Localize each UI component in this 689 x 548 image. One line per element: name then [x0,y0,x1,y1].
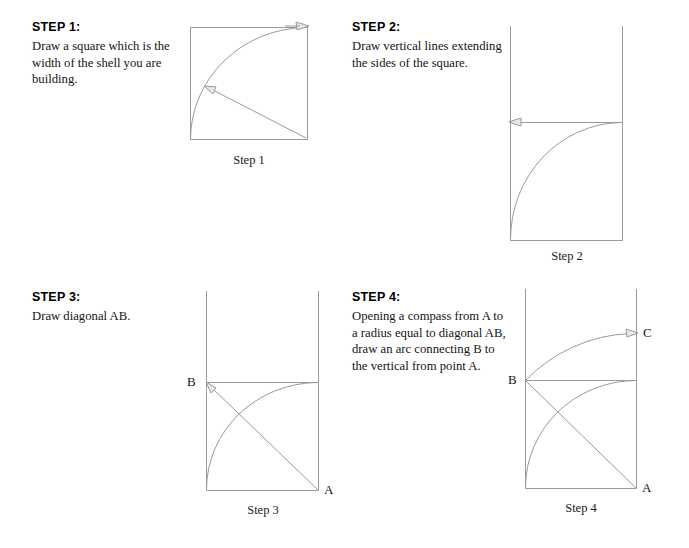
step-4-diagonal-ab [526,381,636,488]
step-3-caption: Step 3 [223,503,303,518]
step-1-text: STEP 1: Draw a square which is the width… [32,20,190,88]
page-root: { "page": { "title": "Shell construction… [0,0,689,548]
step-1-radius-line [211,89,306,138]
step-3-body: Draw diagonal AB. [32,308,190,325]
step-3-label-A: A [324,482,333,498]
step-4-label-C: C [643,325,652,341]
step-3-label-B: B [187,374,196,390]
step-3-text: STEP 3: Draw diagonal AB. [32,290,190,325]
step-3-diagonal-ab [210,386,318,490]
step-1-body: Draw a square which is the width of the … [32,38,190,89]
step-4-caption: Step 4 [541,501,621,516]
step-2-arrowhead [509,118,521,126]
step-4-label-B: B [508,372,517,388]
step-2-caption: Step 2 [527,249,607,264]
step-4-compass-arrowhead [626,329,638,337]
step-4-heading: STEP 4: [352,290,510,306]
step-2-arc [511,123,622,240]
step-1-caption: Step 1 [209,153,289,168]
step-1-arc-arrowhead [296,22,309,30]
step-4-label-A: A [642,480,651,496]
step-1-square [191,28,308,140]
step-1-heading: STEP 1: [32,20,190,36]
step-4-text: STEP 4: Opening a compass from A to a ra… [352,290,510,375]
step-3-heading: STEP 3: [32,290,190,306]
step-4-compass-arc [526,334,631,381]
step-4-body: Opening a compass from A to a radius equ… [352,308,510,376]
step-2-text: STEP 2: Draw vertical lines extending th… [352,20,510,71]
step-1-arc [191,28,306,140]
step-3-diagonal-arrowhead [206,382,216,393]
step-2-heading: STEP 2: [352,20,510,36]
step-1-radius-arrowhead [204,86,216,94]
step-2-body: Draw vertical lines extending the sides … [352,38,510,72]
step-3-arc [206,383,317,490]
step-4-inner-arc [526,381,636,488]
